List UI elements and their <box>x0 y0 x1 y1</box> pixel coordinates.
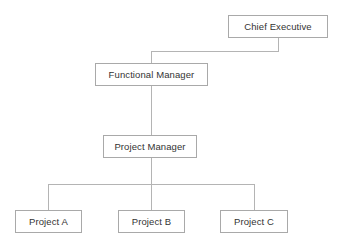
node-project-c[interactable]: Project C <box>220 210 288 233</box>
node-chief-executive[interactable]: Chief Executive <box>228 15 328 38</box>
node-label-project-manager: Project Manager <box>114 142 185 152</box>
node-project-a[interactable]: Project A <box>15 210 82 233</box>
org-chart-diagram: Chief Executive Functional Manager Proje… <box>0 0 338 249</box>
node-label-chief-executive: Chief Executive <box>244 22 312 32</box>
node-label-functional-manager: Functional Manager <box>109 70 195 80</box>
node-label-project-b: Project B <box>132 217 171 227</box>
node-functional-manager[interactable]: Functional Manager <box>95 63 208 86</box>
node-project-b[interactable]: Project B <box>118 210 185 233</box>
node-label-project-a: Project A <box>29 217 68 227</box>
connector-chief-executive-to-functional-manager <box>151 38 278 63</box>
node-project-manager[interactable]: Project Manager <box>103 135 197 158</box>
node-label-project-c: Project C <box>234 217 274 227</box>
